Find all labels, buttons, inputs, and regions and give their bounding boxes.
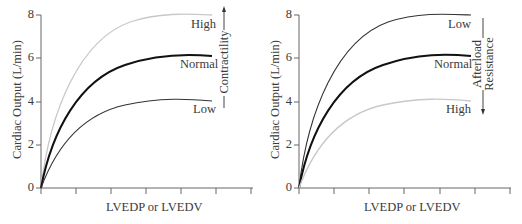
contractility-chart: 8 6 4 2 0 Cardiac Output (L/min) LVEDP o…: [0, 0, 261, 224]
curve-low-contractility: [41, 99, 212, 188]
y-tick-label: 8: [280, 7, 292, 22]
curve-high-contractility: [41, 14, 212, 188]
arrow-up-icon: [222, 6, 226, 12]
y-ticks: [36, 15, 41, 188]
x-axis-label: LVEDP or LVEDV: [364, 200, 461, 215]
curve-label-low: Low: [448, 17, 471, 32]
x-ticks: [41, 188, 251, 194]
x-axis-label: LVEDP or LVEDV: [106, 200, 203, 215]
y-axis-label: Cardiac Output (L/min): [10, 30, 25, 170]
curve-label-high: High: [446, 102, 471, 117]
curve-label-low: Low: [193, 102, 216, 117]
afterload-plot: [258, 0, 522, 224]
afterload-chart: 8 6 4 2 0 Cardiac Output (L/min) LVEDP o…: [258, 0, 519, 224]
afterload-label-line2: Resistance: [483, 36, 495, 92]
curve-normal-afterload: [299, 55, 471, 188]
y-tick-label: 0: [22, 180, 34, 195]
y-ticks: [294, 15, 299, 188]
y-tick-label: 0: [280, 180, 292, 195]
afterload-label: Afterload Resistance: [471, 36, 495, 92]
curve-label-normal: Normal: [180, 57, 218, 72]
curve-label-normal: Normal: [434, 57, 472, 72]
x-ticks: [299, 188, 510, 194]
contractility-label: Contractility: [218, 28, 230, 96]
y-tick-label: 8: [22, 7, 34, 22]
curve-label-high: High: [191, 17, 216, 32]
arrow-down-icon: [481, 109, 485, 115]
curve-normal-contractility: [41, 55, 212, 188]
y-axis-label: Cardiac Output (L/min): [268, 30, 283, 170]
